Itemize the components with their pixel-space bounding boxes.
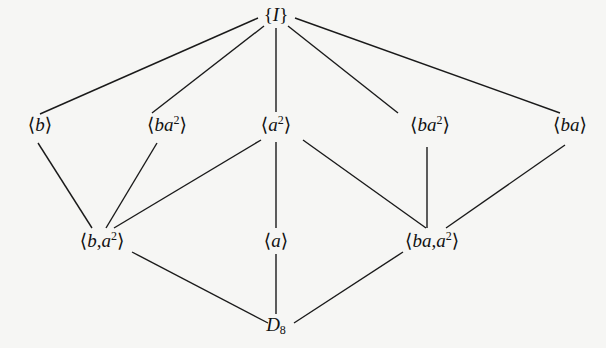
node-ba-a2: ⟨ba,a2⟩ [405, 230, 459, 250]
label-var: a [436, 230, 446, 251]
bracket-close: ⟩ [452, 230, 459, 251]
edge-b_a2-D8 [132, 252, 268, 323]
bracket-close: ⟩ [117, 230, 124, 251]
subgroup-lattice-diagram: {I} ⟨b⟩ ⟨ba2⟩ ⟨a2⟩ ⟨ba2⟩ ⟨ba⟩ ⟨b,a2⟩ ⟨a⟩… [0, 0, 606, 348]
label-subscript: 8 [280, 323, 286, 337]
edge-identity-ba2_right [288, 26, 398, 113]
node-ba: ⟨ba⟩ [553, 115, 587, 134]
label-var: ba [418, 114, 437, 135]
node-ba2-left: ⟨ba2⟩ [147, 114, 187, 134]
node-b: ⟨b⟩ [28, 115, 52, 134]
node-a2: ⟨a2⟩ [261, 114, 291, 134]
label-var: ba [412, 230, 431, 251]
label-var: b [87, 230, 97, 251]
edge-ba-ba_a2 [446, 145, 565, 228]
bracket-close: ⟩ [443, 114, 450, 135]
edge-identity-b [40, 18, 258, 114]
bracket-close: ⟩ [580, 114, 587, 135]
node-ba2-right: ⟨ba2⟩ [410, 114, 450, 134]
brace-open: { [264, 4, 273, 25]
node-D8: D8 [266, 315, 286, 336]
edge-a2-ba_a2 [303, 140, 426, 228]
label-var: a [268, 114, 278, 135]
edge-b-b_a2 [38, 143, 92, 228]
node-a: ⟨a⟩ [264, 231, 288, 250]
edge-ba2_left-b_a2 [106, 143, 157, 228]
label-var: ba [155, 114, 174, 135]
label-var: a [101, 230, 111, 251]
label-var: a [271, 230, 281, 251]
edge-ba_a2-D8 [294, 252, 403, 323]
node-b-a2: ⟨b,a2⟩ [80, 230, 125, 250]
label-var: b [35, 114, 45, 135]
lattice-edges [0, 0, 606, 348]
node-identity: {I} [264, 5, 289, 24]
edge-a2-b_a2 [114, 140, 261, 228]
label-var: D [266, 314, 280, 335]
edge-identity-ba2_left [152, 26, 264, 113]
bracket-close: ⟩ [281, 230, 288, 251]
label-var: ba [561, 114, 580, 135]
brace-close: } [279, 4, 288, 25]
bracket-close: ⟩ [45, 114, 52, 135]
edge-identity-ba [295, 18, 560, 113]
bracket-close: ⟩ [284, 114, 291, 135]
bracket-close: ⟩ [180, 114, 187, 135]
